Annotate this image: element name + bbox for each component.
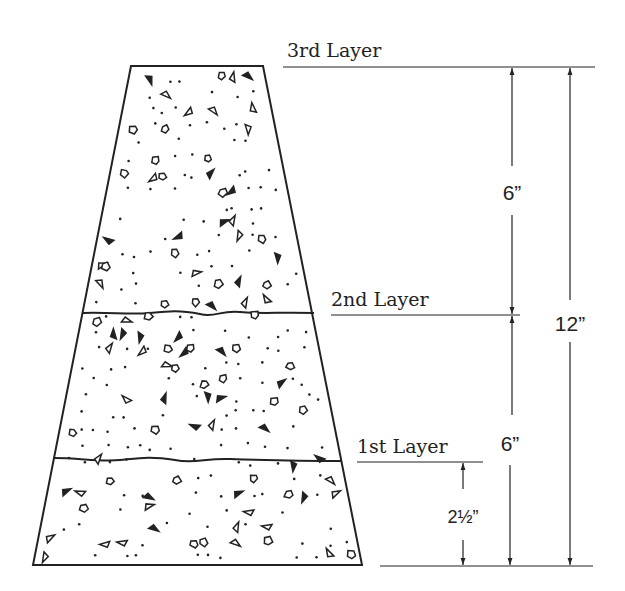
dimension-6in-upper: 6” [503, 68, 522, 314]
label-1st-layer: 1st Layer [357, 435, 448, 457]
label-2nd-layer: 2nd Layer [331, 288, 429, 310]
dimension-6in-lower: 6” [501, 316, 520, 565]
dimension-label-2-5in: 2½” [447, 507, 478, 527]
concrete-layers-diagram: 3rd Layer 2nd Layer 1st Layer 12” 6” 6” … [0, 0, 625, 591]
dimension-label-6in-lower: 6” [501, 432, 520, 455]
dimension-label-12in: 12” [555, 312, 585, 335]
concrete-specimen [33, 66, 362, 565]
dimension-label-6in-upper: 6” [503, 181, 522, 204]
dimension-12in: 12” [555, 68, 585, 565]
dimension-2-5in: 2½” [447, 463, 478, 565]
label-3rd-layer: 3rd Layer [287, 39, 382, 61]
